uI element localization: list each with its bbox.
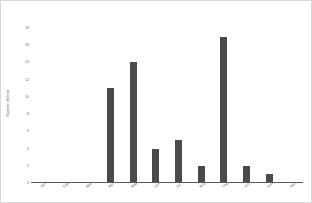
bar-jul [175, 140, 182, 183]
x-tick-slot: Feb [54, 184, 77, 203]
y-axis-tick-label: 0 [27, 181, 29, 185]
x-tick-slot: Dec [280, 184, 303, 203]
bar-may [130, 62, 137, 183]
y-axis-tick-label: 6 [27, 129, 29, 133]
plot-area [31, 28, 303, 183]
bar-slot [99, 28, 122, 183]
bar-slot [280, 28, 303, 183]
bar-slot [258, 28, 281, 183]
x-tick-slot: Nov [258, 184, 281, 203]
x-axis-tick-labels: JanFebMarAprMayJunJulAugSepOctNovDec [31, 184, 303, 203]
y-axis-tick-label: 8 [27, 112, 29, 116]
y-axis-tick-label: 10 [25, 95, 29, 99]
bar-apr [107, 88, 114, 183]
x-axis-tick-label: Apr [108, 182, 115, 189]
y-axis-tick-label: 16 [25, 43, 29, 47]
x-tick-slot: Jun [144, 184, 167, 203]
y-axis-title-label: Number of birds [6, 89, 10, 116]
bar-slot [122, 28, 145, 183]
x-tick-slot: Mar [76, 184, 99, 203]
bar-slot [144, 28, 167, 183]
bar-slot [235, 28, 258, 183]
bar-jun [152, 149, 159, 183]
bar-slot [76, 28, 99, 183]
bar-slot [212, 28, 235, 183]
x-tick-slot: Jan [31, 184, 54, 203]
x-tick-slot: Aug [190, 184, 213, 203]
bar-slot [167, 28, 190, 183]
x-axis-baseline [31, 182, 303, 183]
x-axis-tick-label: Oct [244, 182, 251, 189]
y-axis-title: Number of birds [1, 1, 15, 203]
bar-oct [243, 166, 250, 183]
bar-slot [54, 28, 77, 183]
bar-slot [31, 28, 54, 183]
bars-layer [31, 28, 303, 183]
y-axis-tick-labels: 024681012141618 [15, 1, 31, 203]
x-tick-slot: Jul [167, 184, 190, 203]
bar-sep [220, 37, 227, 183]
y-axis-tick-label: 18 [25, 26, 29, 30]
bar-slot [190, 28, 213, 183]
bar-chart-figure: Number of birds 024681012141618 JanFebMa… [0, 0, 312, 203]
y-axis-tick-label: 4 [27, 147, 29, 151]
x-tick-slot: Oct [235, 184, 258, 203]
x-tick-slot: Sep [212, 184, 235, 203]
x-tick-slot: May [122, 184, 145, 203]
y-axis-tick-label: 12 [25, 78, 29, 82]
y-axis-tick-label: 2 [27, 164, 29, 168]
x-tick-slot: Apr [99, 184, 122, 203]
y-axis-tick-label: 14 [25, 60, 29, 64]
x-axis-tick-label: Jul [176, 183, 182, 189]
